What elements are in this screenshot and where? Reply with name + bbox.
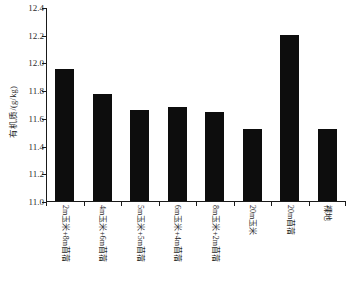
y-axis-tick-mark <box>42 119 46 120</box>
bar <box>318 129 337 201</box>
y-axis-tick-label: 11.4 <box>18 142 44 151</box>
x-axis-tick-label: 20m苜蓿 <box>284 205 296 297</box>
y-axis-line <box>46 8 47 202</box>
x-axis-tick-labels: 2m玉米+8m苜蓿4m玉米+6m苜蓿5m玉米+5m苜蓿6m玉米+4m苜蓿8m玉米… <box>46 205 346 297</box>
bar <box>93 94 112 201</box>
y-axis-tick-labels: 12.412.212.011.811.611.411.211.0 <box>18 8 44 202</box>
x-axis-tick-label: 4m玉米+6m苜蓿 <box>96 205 108 297</box>
x-axis-tick-label: 裸地 <box>321 205 333 297</box>
bar <box>280 35 299 201</box>
x-axis-tick-label: 5m玉米+5m苜蓿 <box>134 205 146 297</box>
bar <box>168 107 187 201</box>
plot-area <box>46 8 346 202</box>
y-axis-tick-label: 12.4 <box>18 4 44 13</box>
bar-chart-figure: 有机质/(g/kg) 12.412.212.011.811.611.411.21… <box>0 0 363 297</box>
y-axis-tick-mark <box>42 174 46 175</box>
x-axis-tick-label: 6m玉米+4m苜蓿 <box>171 205 183 297</box>
y-axis-tick-mark <box>42 8 46 9</box>
bar <box>130 110 149 201</box>
x-axis-tick-label: 8m玉米+2m苜蓿 <box>209 205 221 297</box>
y-axis-title-text: 有机质/(g/kg) <box>6 86 18 138</box>
bar <box>55 69 74 201</box>
y-axis-tick-mark <box>42 91 46 92</box>
bar <box>243 129 262 201</box>
y-axis-tick-label: 11.0 <box>18 198 44 207</box>
y-axis-tick-label: 11.6 <box>18 114 44 123</box>
y-axis-tick-label: 12.2 <box>18 31 44 40</box>
y-axis-tick-label: 11.8 <box>18 87 44 96</box>
y-axis-tick-label: 11.2 <box>18 170 44 179</box>
y-axis-tick-label: 12.0 <box>18 59 44 68</box>
y-axis-tick-mark <box>42 63 46 64</box>
x-axis-tick-label: 2m玉米+8m苜蓿 <box>59 205 71 297</box>
y-axis-tick-mark <box>42 147 46 148</box>
bar <box>205 112 224 201</box>
y-axis-tick-mark <box>42 36 46 37</box>
x-axis-tick-label: 20m玉米 <box>246 205 258 297</box>
